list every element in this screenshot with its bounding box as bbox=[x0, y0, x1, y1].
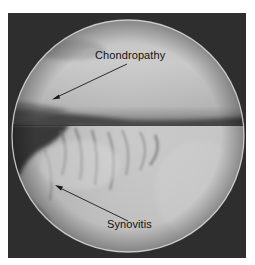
chondropathy-label: Chondropathy bbox=[95, 49, 165, 61]
synovitis-label: Synovitis bbox=[107, 218, 152, 230]
